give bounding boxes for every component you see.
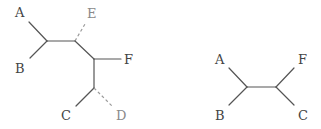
label-c: C	[61, 108, 71, 123]
edge-a	[229, 68, 247, 87]
label-b: B	[15, 61, 25, 76]
label-e: E	[87, 6, 97, 21]
label-c: C	[298, 108, 308, 123]
label-a: A	[14, 5, 25, 20]
label-b: B	[215, 108, 225, 123]
label-d: D	[116, 108, 126, 123]
edge-e-f	[75, 41, 94, 59]
edge-c	[76, 88, 94, 106]
edge-b	[229, 87, 247, 105]
right-tree: A B F C	[214, 52, 308, 123]
edge-d-dashed	[94, 88, 112, 106]
diagram-canvas: A B E F C D A B F C	[0, 0, 321, 129]
label-f: F	[124, 52, 133, 67]
label-a: A	[214, 52, 225, 67]
edge-a	[29, 22, 47, 41]
edge-e-dashed	[75, 24, 85, 41]
edge-f	[276, 68, 294, 87]
label-f: F	[298, 52, 307, 67]
left-tree: A B E F C D	[14, 5, 133, 123]
edge-b	[30, 41, 47, 58]
edge-c	[276, 87, 294, 105]
